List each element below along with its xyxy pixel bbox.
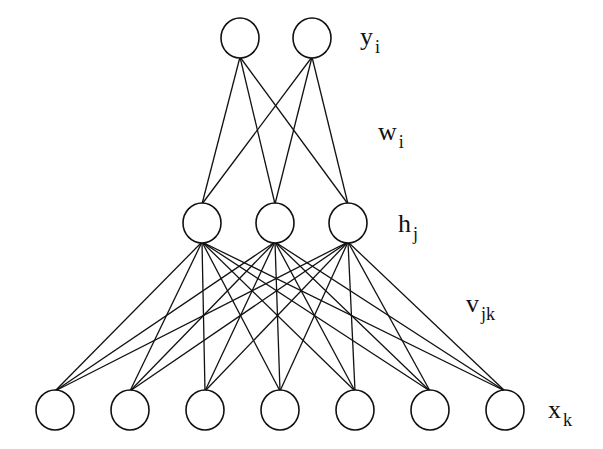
edge-v-0-4 bbox=[202, 242, 355, 391]
hidden-layer-label: hj bbox=[398, 209, 418, 244]
edge-v-1-0 bbox=[55, 242, 275, 391]
input-node-3 bbox=[261, 390, 299, 430]
output-layer-label: yi bbox=[360, 22, 380, 57]
hidden-node-2 bbox=[329, 203, 367, 243]
output-node-1 bbox=[293, 18, 331, 58]
neural-network-diagram: yihjxkwivjk bbox=[0, 0, 603, 449]
edge-w-1-2 bbox=[312, 57, 348, 204]
input-layer-label: xk bbox=[548, 395, 572, 430]
output-node-0 bbox=[221, 18, 259, 58]
weight-label-w: wi bbox=[378, 117, 404, 152]
input-node-2 bbox=[186, 390, 224, 430]
weight-label-v: vjk bbox=[466, 289, 495, 324]
layer-labels: yihjxkwivjk bbox=[360, 22, 572, 430]
hidden-node-0 bbox=[183, 203, 221, 243]
edge-v-2-0 bbox=[55, 242, 348, 391]
network-nodes bbox=[36, 18, 524, 430]
edge-v-0-1 bbox=[130, 242, 202, 391]
edge-w-0-1 bbox=[240, 57, 275, 204]
input-node-0 bbox=[36, 390, 74, 430]
input-node-6 bbox=[486, 390, 524, 430]
input-node-4 bbox=[336, 390, 374, 430]
edge-v-0-0 bbox=[55, 242, 202, 391]
edge-w-0-0 bbox=[202, 57, 240, 204]
input-node-5 bbox=[411, 390, 449, 430]
edge-v-1-2 bbox=[205, 242, 275, 391]
input-node-1 bbox=[111, 390, 149, 430]
edge-v-2-2 bbox=[205, 242, 348, 391]
edge-v-2-3 bbox=[280, 242, 348, 391]
hidden-node-1 bbox=[256, 203, 294, 243]
